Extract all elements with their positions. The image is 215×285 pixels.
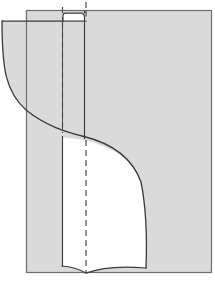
technical-drawing xyxy=(0,0,215,285)
figure-canvas xyxy=(0,0,215,285)
left-sweep-fill xyxy=(2,21,84,136)
